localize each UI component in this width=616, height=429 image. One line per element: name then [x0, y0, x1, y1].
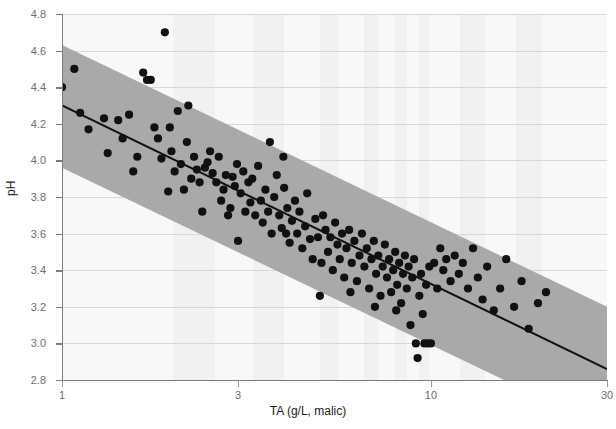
y-tick-label: 2.8	[20, 375, 46, 385]
data-point	[171, 167, 179, 175]
data-point	[442, 255, 450, 263]
data-point	[376, 292, 384, 300]
data-point	[234, 237, 242, 245]
x-tick	[431, 381, 432, 387]
data-point	[403, 284, 411, 292]
data-point	[427, 339, 435, 347]
data-point	[417, 270, 425, 278]
data-point	[129, 167, 137, 175]
data-point	[166, 123, 174, 131]
plot-area	[62, 14, 607, 380]
y-tick-label: 3.2	[20, 302, 46, 312]
data-point	[542, 288, 550, 296]
data-point	[324, 248, 332, 256]
data-point	[345, 226, 353, 234]
x-tick-label: 30	[601, 389, 613, 401]
data-point	[203, 158, 211, 166]
data-point	[311, 215, 319, 223]
data-point	[346, 288, 354, 296]
data-point	[150, 123, 158, 131]
data-point	[270, 193, 278, 201]
data-point	[301, 222, 309, 230]
data-point	[295, 208, 303, 216]
y-axis-line	[62, 14, 63, 381]
data-point	[415, 292, 423, 300]
data-point	[275, 211, 283, 219]
data-point	[342, 244, 350, 252]
y-tick	[56, 124, 62, 125]
data-point	[237, 189, 245, 197]
scatter-points	[62, 14, 607, 380]
data-point	[370, 237, 378, 245]
data-point	[206, 147, 214, 155]
data-point	[333, 240, 341, 248]
y-tick-label: 4.2	[20, 119, 46, 129]
data-point	[154, 134, 162, 142]
data-point	[215, 153, 223, 161]
data-point	[286, 239, 294, 247]
data-point	[389, 266, 397, 274]
data-point	[331, 219, 339, 227]
data-point	[379, 262, 387, 270]
data-point	[184, 101, 192, 109]
y-tick	[56, 343, 62, 344]
data-point	[161, 28, 169, 36]
data-point	[254, 162, 262, 170]
data-point	[251, 211, 259, 219]
data-point	[288, 217, 296, 225]
x-tick	[238, 381, 239, 387]
data-point	[381, 240, 389, 248]
data-point	[360, 262, 368, 270]
data-point	[392, 306, 400, 314]
y-tick-label: 4.4	[20, 82, 46, 92]
y-tick-label: 3.0	[20, 338, 46, 348]
data-point	[291, 197, 299, 205]
y-tick-label: 3.4	[20, 265, 46, 275]
y-tick-label: 4.6	[20, 46, 46, 56]
data-point	[306, 235, 314, 243]
data-point	[293, 230, 301, 238]
y-tick	[56, 160, 62, 161]
data-point	[395, 259, 403, 267]
data-point	[510, 303, 518, 311]
data-point	[383, 273, 391, 281]
data-point	[264, 208, 272, 216]
data-point	[412, 339, 420, 347]
data-point	[410, 255, 418, 263]
y-tick-label: 4.0	[20, 155, 46, 165]
data-point	[372, 270, 380, 278]
data-point	[70, 65, 78, 73]
data-point	[355, 251, 363, 259]
x-axis-title: TA (g/L, malic)	[0, 404, 616, 418]
data-point	[397, 299, 405, 307]
y-tick	[56, 270, 62, 271]
data-point	[374, 251, 382, 259]
data-point	[239, 167, 247, 175]
data-point	[195, 178, 203, 186]
data-point	[338, 230, 346, 238]
y-tick	[56, 234, 62, 235]
data-point	[231, 182, 239, 190]
data-point	[84, 125, 92, 133]
data-point	[336, 255, 344, 263]
data-point	[474, 273, 482, 281]
x-tick-label: 1	[59, 389, 65, 401]
data-point	[363, 244, 371, 252]
chart-figure: 2.83.03.23.43.63.84.04.24.44.64.8 131030…	[0, 0, 616, 429]
data-point	[229, 173, 237, 181]
data-point	[261, 186, 269, 194]
y-tick	[56, 51, 62, 52]
data-point	[387, 288, 395, 296]
data-point	[422, 281, 430, 289]
data-point	[257, 197, 265, 205]
data-point	[125, 111, 133, 119]
data-point	[314, 233, 322, 241]
data-point	[233, 160, 241, 168]
data-point	[139, 68, 147, 76]
data-point	[190, 153, 198, 161]
data-point	[268, 230, 276, 238]
x-tick-label: 3	[235, 389, 241, 401]
data-point	[399, 270, 407, 278]
y-tick	[56, 14, 62, 15]
data-point	[464, 284, 472, 292]
